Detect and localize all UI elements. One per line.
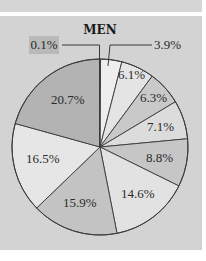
slice-label-16-5: 16.5% <box>26 151 60 166</box>
pie-chart: MEN 0.1% 3.9% 6.1% 6.3% 7.1% 8.8% 14.6% … <box>0 0 206 261</box>
slice-label-8-8: 8.8% <box>146 150 173 165</box>
slice-label-3-9: 3.9% <box>154 37 181 52</box>
slice-label-15-9: 15.9% <box>63 195 97 210</box>
slice-label-0-1: 0.1% <box>30 37 57 52</box>
slice-label-20-7: 20.7% <box>51 92 85 107</box>
slice-label-7-1: 7.1% <box>147 119 174 134</box>
chart-title: MEN <box>83 23 116 37</box>
slice-label-14-6: 14.6% <box>121 186 155 201</box>
slice-label-6-1: 6.1% <box>118 67 145 82</box>
slice-label-6-3: 6.3% <box>140 90 167 105</box>
